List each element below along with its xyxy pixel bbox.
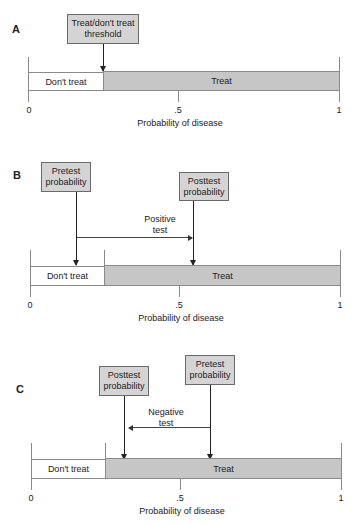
- tick-label-mid: .5: [176, 493, 184, 503]
- posttest-box: Posttest probability: [99, 366, 149, 396]
- pretest-box-line1: Pretest: [52, 166, 81, 177]
- positive-test-label: Positive test: [144, 214, 176, 236]
- negative-test-label: Negative test: [148, 407, 184, 429]
- axis-mid-tick: [179, 285, 180, 297]
- treat-region: Treat: [105, 458, 342, 479]
- pretest-box-line2: probability: [45, 177, 86, 188]
- dont-treat-region: Don't treat: [31, 459, 106, 479]
- dont-treat-region: Don't treat: [30, 266, 105, 286]
- axis-mid-tick: [178, 90, 179, 102]
- panel-label-b: B: [13, 169, 21, 181]
- panel-label-c: C: [16, 383, 24, 395]
- tick-label-1: 1: [336, 105, 341, 115]
- axis-title: Probability of disease: [137, 118, 223, 128]
- tick-label-0: 0: [28, 493, 33, 503]
- posttest-box-line1: Posttest: [108, 370, 141, 381]
- threshold-box-line2: threshold: [84, 29, 121, 40]
- posttest-arrow-icon: [193, 201, 194, 265]
- tick-label-mid: .5: [175, 300, 183, 310]
- pretest-box-line1: Pretest: [196, 359, 225, 370]
- positive-test-line1: Positive: [144, 214, 176, 225]
- threshold-arrow-icon: [103, 44, 104, 71]
- pretest-arrow-icon: [210, 385, 211, 459]
- treat-region: Treat: [103, 71, 340, 91]
- threshold-box-line1: Treat/don't treat: [72, 18, 135, 29]
- posttest-box-line2: probability: [183, 187, 224, 198]
- threshold-box: Treat/don't treat threshold: [67, 14, 139, 44]
- posttest-arrow-icon: [124, 396, 125, 459]
- dont-treat-region: Don't treat: [28, 72, 104, 91]
- axis-title: Probability of disease: [138, 313, 224, 323]
- positive-test-arrow-icon: [77, 237, 192, 238]
- posttest-box: Posttest probability: [179, 172, 229, 201]
- pretest-box: Pretest probability: [41, 162, 91, 192]
- tick-label-0: 0: [26, 105, 31, 115]
- panel-label-a: A: [12, 23, 20, 35]
- pretest-box: Pretest probability: [185, 355, 235, 385]
- positive-test-line2: test: [144, 225, 176, 236]
- pretest-arrow-icon: [76, 192, 77, 265]
- tick-label-mid: .5: [174, 105, 182, 115]
- posttest-box-line1: Posttest: [188, 176, 221, 187]
- negative-test-line1: Negative: [148, 407, 184, 418]
- threshold-divider-line: [104, 250, 105, 266]
- threshold-divider-line: [105, 443, 106, 459]
- posttest-box-line2: probability: [103, 381, 144, 392]
- axis-mid-tick: [180, 478, 181, 490]
- pretest-box-line2: probability: [189, 370, 230, 381]
- tick-label-0: 0: [27, 300, 32, 310]
- tick-label-1: 1: [338, 493, 343, 503]
- negative-test-arrow-icon: [129, 427, 210, 428]
- axis-title: Probability of disease: [139, 506, 225, 516]
- tick-label-1: 1: [337, 300, 342, 310]
- treat-region: Treat: [104, 265, 341, 286]
